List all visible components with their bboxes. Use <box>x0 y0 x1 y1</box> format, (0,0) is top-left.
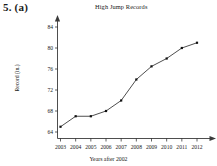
data-point-marker <box>181 47 183 49</box>
data-point-marker <box>59 126 61 128</box>
data-point-marker <box>90 115 92 117</box>
line-chart-plot: 646872768084 200320042005200620072008200… <box>0 0 217 166</box>
x-tick-label: 2003 <box>55 144 66 150</box>
y-tick-label: 68 <box>47 108 53 114</box>
x-tick-label: 2010 <box>161 144 172 150</box>
axis-layer <box>55 15 216 141</box>
data-point-marker <box>166 57 168 59</box>
data-polyline <box>61 43 198 127</box>
x-tick-label: 2004 <box>70 144 81 150</box>
x-tick-label: 2005 <box>85 144 96 150</box>
x-axis-arrow-icon <box>210 136 217 141</box>
data-point-marker <box>135 78 137 80</box>
data-point-marker <box>75 115 77 117</box>
x-tick-label: 2007 <box>116 144 127 150</box>
figure-container: 5. (a) High Jump Records Record (in.) Ye… <box>0 0 217 166</box>
data-line <box>61 43 198 127</box>
x-axis-ticks: 2003200420052006200720082009201020112012 <box>55 138 203 150</box>
data-point-marker <box>196 42 198 44</box>
data-point-marker <box>150 65 152 67</box>
x-tick-label: 2006 <box>100 144 111 150</box>
y-axis-ticks: 646872768084 <box>47 24 58 135</box>
y-tick-label: 64 <box>47 129 53 135</box>
y-tick-label: 84 <box>47 24 53 30</box>
x-tick-label: 2011 <box>176 144 187 150</box>
y-tick-label: 72 <box>47 87 53 93</box>
y-axis-arrow-icon <box>55 15 60 22</box>
x-tick-label: 2009 <box>146 144 157 150</box>
x-tick-label: 2012 <box>191 144 202 150</box>
y-tick-label: 76 <box>47 66 53 72</box>
data-points <box>59 42 198 128</box>
y-tick-label: 80 <box>47 45 53 51</box>
data-point-marker <box>105 110 107 112</box>
data-point-marker <box>120 99 122 101</box>
x-tick-label: 2008 <box>131 144 142 150</box>
